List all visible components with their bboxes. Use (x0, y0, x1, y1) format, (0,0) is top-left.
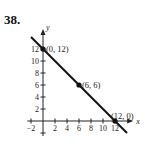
y-tick-label: 6 (35, 81, 39, 90)
x-tick-label: 12 (111, 124, 119, 133)
data-point (76, 82, 81, 87)
y-tick-label: 4 (35, 93, 39, 102)
x-tick-label: 2 (53, 124, 57, 133)
x-axis-label: x (135, 117, 140, 126)
point-label: (0, 12) (46, 44, 69, 54)
y-tick-label: 12 (31, 45, 39, 54)
point-label: (6, 6) (82, 80, 101, 90)
data-point (40, 46, 45, 51)
x-tick-label: 4 (65, 124, 69, 133)
y-tick-label: 8 (35, 69, 39, 78)
line-chart: xy−22468101224681012(0, 12)(6, 6)(12, 0) (0, 0, 147, 148)
y-tick-label: 10 (31, 57, 39, 66)
y-tick-label: 2 (35, 105, 39, 114)
y-axis-arrow-icon (41, 29, 46, 35)
x-tick-label: 10 (99, 124, 107, 133)
x-tick-label: 6 (77, 124, 81, 133)
point-label: (12, 0) (111, 111, 134, 121)
x-tick-label: −2 (27, 124, 36, 133)
y-axis-label: y (45, 23, 50, 32)
x-tick-label: 8 (89, 124, 93, 133)
